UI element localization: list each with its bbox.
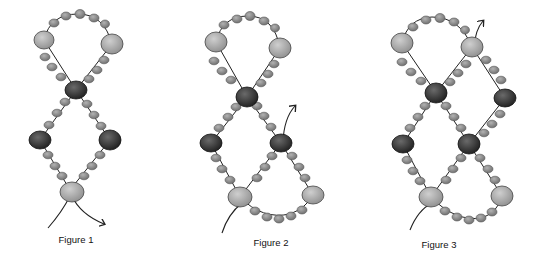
figure-1-label: Figure 1 (59, 234, 94, 245)
figure-1-diagram (29, 10, 123, 229)
small-beads (397, 14, 506, 225)
figure-2-label: Figure 2 (254, 237, 289, 248)
thread-tail (222, 203, 242, 233)
dark-beads (200, 87, 292, 152)
dark-beads (29, 81, 121, 150)
figure-2-diagram (200, 12, 324, 234)
figure-3-label: Figure 3 (422, 239, 457, 250)
figure-3-diagram (391, 14, 516, 231)
beading-diagram (0, 0, 535, 259)
